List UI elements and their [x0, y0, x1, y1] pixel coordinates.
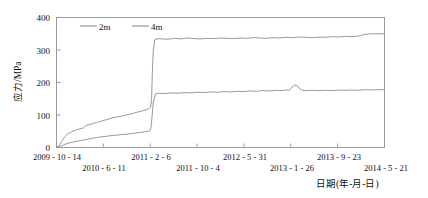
y-tick-label-200: 200 [22, 78, 50, 88]
y-tick-label-300: 300 [22, 46, 50, 56]
x-tick-label-5: 2013 - 1 - 26 [245, 163, 339, 173]
y-axis-ticks [57, 18, 61, 148]
series-line-4m [57, 85, 385, 147]
x-tick-label-0: 2009 - 10 - 14 [10, 152, 104, 162]
x-axis-ticks [57, 144, 385, 148]
x-tick-label-3: 2011 - 10 - 4 [151, 163, 245, 173]
x-tick-label-1: 2010 - 6 - 11 [57, 163, 151, 173]
legend-label-4m: 4m [151, 22, 163, 32]
legend-label-2m: 2m [99, 22, 111, 32]
x-tick-label-7: 2014 - 5 - 21 [339, 163, 428, 173]
stress-vs-date-chart: 应力/MPa 400 300 200 100 0 2009 - 10 - 14 … [0, 0, 428, 198]
y-tick-label-400: 400 [22, 13, 50, 23]
x-axis-title: 日期(年-月-日) [316, 176, 379, 190]
x-tick-label-2: 2011 - 2 - 6 [104, 152, 198, 162]
data-series-group [57, 34, 385, 148]
x-tick-label-6: 2013 - 9 - 23 [292, 152, 386, 162]
y-tick-label-100: 100 [22, 111, 50, 121]
x-tick-label-4: 2012 - 5 - 31 [198, 152, 292, 162]
